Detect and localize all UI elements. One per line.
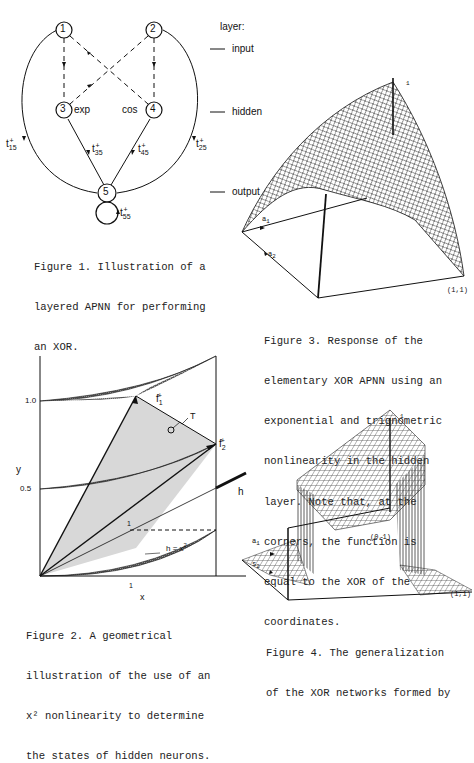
figure-2-caption: Figure 2. A geometrical illustration of … [26,603,210,763]
figure-2: y 1.0 0.5 1 1 x f1+ f2+ T h h = x2 Figur… [0,340,250,650]
fig3-top-label: 1 [406,80,410,87]
figure-4-surface-plot [240,400,474,600]
fig4-top-label: 1 [400,413,404,420]
fig4-corner11-label: (1,1) [450,590,471,598]
self-loop [96,202,118,224]
t15-label: t15+ [6,137,14,151]
node-5-label: 5 [103,186,109,197]
layer-heading: layer: [220,21,244,32]
fig3-a2-label: a2 [268,250,276,260]
figure-4-caption: Figure 4. The generalization of the XOR … [266,620,450,727]
fig2-inner-tick: 1 [127,520,131,527]
fig2-f2-label: f2+ [219,437,225,451]
figure-4: 1 a1 s2 (0,1) (1,1) Figure 4. The genera… [240,400,474,650]
node-2-label: 2 [150,23,156,34]
fig2-x-axis-label: x [140,592,145,602]
node-1-label: 1 [60,23,66,34]
figure-1: 1 2 3 4 5 exp cos t15+ t35+ t45+ t25+ t5… [0,0,240,280]
figure-1-network-diagram [0,0,240,230]
fig2-T-label: T [190,411,196,421]
fig2-curve-label: h = x2 [166,542,187,553]
t45-label: t45+ [138,142,146,156]
fig3-corner-label: (1,1) [447,286,468,294]
layer-input-label: input [232,43,254,54]
cos-label: cos [122,104,138,115]
node-3-label: 3 [60,103,66,114]
fig3-a1-label: a1 [262,215,270,225]
fig2-x-tick: 1 [129,582,133,589]
fig2-y-axis-label: y [16,464,21,475]
figure-3: 1 a1 a2 (1,1) Figure 3. Response of the … [240,60,474,390]
figure-3-surface-plot [240,60,474,300]
fig2-f1-label: f1+ [156,392,162,406]
figure-2-geometric-plot [0,340,250,580]
t35-label: t35+ [92,142,100,156]
node-4-label: 4 [150,103,156,114]
fig4-a1-label: a1 [252,537,260,547]
t25-label: t25+ [196,137,204,151]
exp-label: exp [74,104,90,115]
fig2-y-tick-1: 1.0 [25,396,36,405]
t55-label: t55+ [120,206,128,220]
fig2-y-tick-05: 0.5 [20,484,31,493]
fig4-corner01-label: (0,1) [370,533,391,541]
fig4-a2-label: s2 [252,560,260,570]
